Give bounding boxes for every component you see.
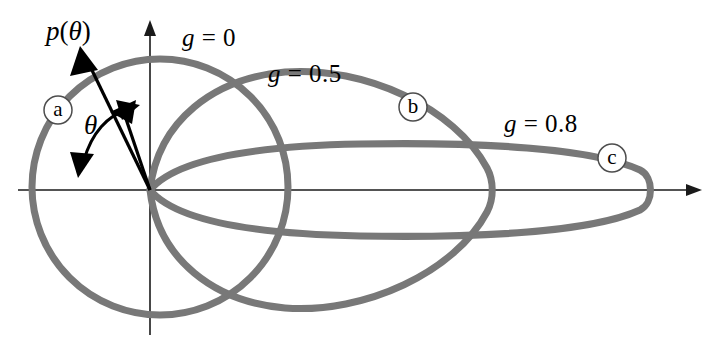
curve-label-g-0-5: g = 0.5 <box>268 60 342 88</box>
direction-vector-line <box>124 113 150 190</box>
marker-c-label: c <box>607 145 616 169</box>
p-theta-label: p(θ) <box>46 16 91 47</box>
p-theta-label-p: p <box>46 16 60 46</box>
p-theta-vector-line <box>88 62 150 190</box>
theta-angle-arc <box>70 100 140 178</box>
horizontal-axis-arrowhead <box>686 184 702 196</box>
marker-c[interactable]: c <box>598 144 626 172</box>
curve-label-g-0-symbol: g <box>182 24 195 51</box>
theta-label: θ <box>84 110 97 141</box>
curve-label-g-0-5-value: = 0.5 <box>281 60 342 87</box>
horizontal-axis <box>18 184 702 196</box>
p-theta-label-close: ) <box>82 16 91 46</box>
curve-label-g-0-8: g = 0.8 <box>504 110 578 138</box>
curve-label-g-0-8-value: = 0.8 <box>517 110 578 137</box>
marker-a[interactable]: a <box>44 96 72 124</box>
p-theta-label-open: ( <box>60 16 69 46</box>
curve-g-0 <box>32 59 288 315</box>
theta-arc-arrowhead-lower <box>70 152 94 178</box>
p-theta-label-theta: θ <box>69 16 82 46</box>
curve-label-g-0: g = 0 <box>182 24 236 52</box>
marker-a-label: a <box>53 97 63 121</box>
phase-function-figure: a b c p(θ) θ g = 0 g = 0.5 g = 0.8 <box>0 0 718 344</box>
marker-b[interactable]: b <box>399 93 427 121</box>
vertical-axis-arrowhead <box>144 20 156 36</box>
curve-label-g-0-8-symbol: g <box>504 110 517 137</box>
curve-label-g-0-5-symbol: g <box>268 60 281 87</box>
marker-b-label: b <box>408 94 419 118</box>
curve-label-g-0-value: = 0 <box>195 24 236 51</box>
polar-plot-canvas: a b c <box>0 0 718 344</box>
